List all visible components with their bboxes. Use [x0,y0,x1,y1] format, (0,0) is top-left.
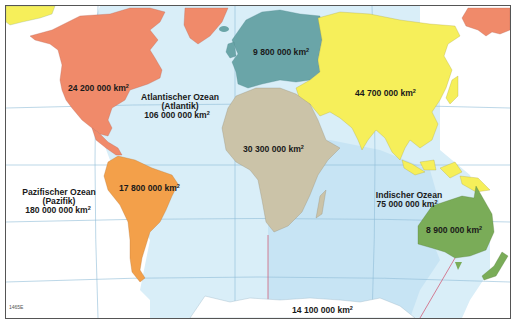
north-america-area-label: 24 200 000 km2 [68,83,129,93]
map-code: 1465E [9,304,24,310]
world-map: 24 200 000 km2 Atlantischer Ozean (Atlan… [0,0,515,323]
europe-area-label: 9 800 000 km2 [253,47,309,57]
south-america-area-label: 17 800 000 km2 [119,183,180,193]
asia-area-label: 44 700 000 km2 [355,88,416,98]
pacific-ocean-area-label: 180 000 000 km2 [25,205,91,215]
antarctica-area-label: 14 100 000 km2 [292,305,353,315]
atlantic-ocean-area-label: 106 000 000 km2 [144,110,210,120]
iceland-shape [219,26,229,32]
indian-ocean-area-label: 75 000 000 km2 [377,199,438,209]
australia-area-label: 8 900 000 km2 [426,225,482,235]
africa-area-label: 30 300 000 km2 [243,144,304,154]
map-canvas: 24 200 000 km2 Atlantischer Ozean (Atlan… [0,0,515,323]
